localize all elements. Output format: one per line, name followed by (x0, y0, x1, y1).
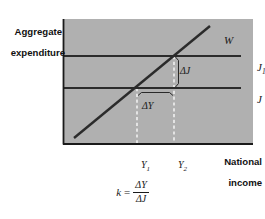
formula-denominator: ΔJ (134, 194, 148, 205)
y-axis-title-line2: expenditure (11, 47, 65, 58)
x-axis-title-line1: National (224, 156, 262, 167)
formula-equals: = (124, 186, 130, 198)
tick-label-y2-subscript: 2 (184, 165, 188, 173)
y-axis-title: Aggregate expenditure (0, 16, 62, 70)
formula-numerator: ΔY (133, 180, 148, 191)
multiplier-diagram: Aggregate expenditure National income W … (0, 0, 265, 219)
curve-label-j: J (246, 81, 262, 118)
multiplier-formula: k = ΔY ΔJ (0, 180, 265, 204)
formula-row: k = ΔY ΔJ (116, 180, 149, 204)
delta-y-label: ΔY (142, 100, 153, 111)
curve-label-w: W (213, 22, 233, 59)
tick-label-y1-subscript: 1 (147, 165, 151, 173)
formula-variable: k (116, 186, 121, 198)
curve-label-j1-subscript: 1 (262, 68, 265, 77)
curve-label-w-text: W (224, 34, 233, 46)
curve-label-j-text: J (257, 93, 262, 105)
y-axis-title-line1: Aggregate (15, 26, 62, 37)
formula-fraction: ΔY ΔJ (133, 180, 148, 204)
delta-j-label: ΔJ (180, 65, 190, 76)
